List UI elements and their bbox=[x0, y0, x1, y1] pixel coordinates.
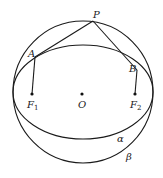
label-A: A bbox=[27, 48, 35, 59]
point-F2 bbox=[133, 92, 136, 95]
outer-sphere-beta bbox=[13, 21, 153, 163]
label-beta: β bbox=[125, 151, 132, 162]
label-B: B bbox=[128, 63, 136, 74]
sphere-ellipse-diagram: P A B F1 O F2 α β bbox=[0, 0, 163, 178]
label-O: O bbox=[78, 99, 86, 110]
label-F1: F1 bbox=[26, 99, 38, 112]
inner-ellipse-alpha bbox=[13, 45, 153, 139]
point-F1 bbox=[30, 92, 33, 95]
label-P: P bbox=[92, 9, 100, 20]
segment-AF1 bbox=[32, 57, 35, 94]
point-O bbox=[80, 92, 83, 95]
label-F2: F2 bbox=[129, 99, 141, 112]
label-alpha: α bbox=[117, 133, 124, 144]
segment-PA bbox=[35, 21, 93, 57]
